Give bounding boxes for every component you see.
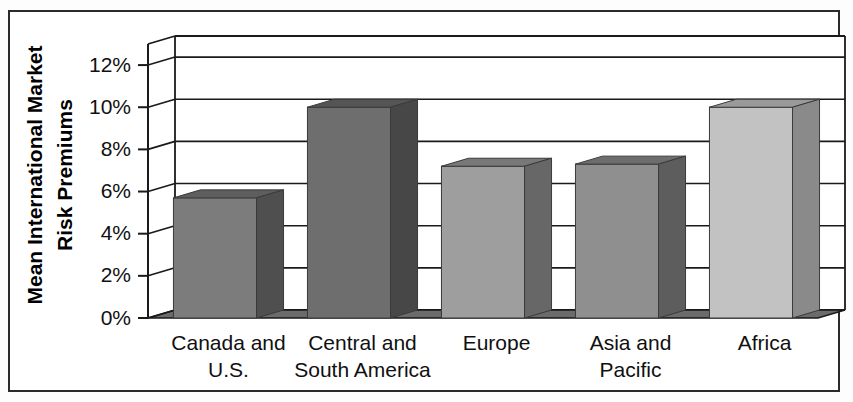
bar-front-face[interactable] xyxy=(307,107,390,318)
bar[interactable] xyxy=(709,99,819,318)
x-axis-category-label: Asia and xyxy=(590,331,672,354)
bar-chart: Mean International Market Risk Premiums … xyxy=(0,0,853,402)
bar[interactable] xyxy=(575,156,685,318)
x-axis-category-label: Pacific xyxy=(600,358,662,381)
y-axis-title: Mean International Market Risk Premiums xyxy=(23,45,76,304)
depth-connector xyxy=(148,99,175,107)
y-axis-title-line-1: Mean International Market xyxy=(23,45,46,304)
bar-side-face xyxy=(257,190,284,318)
top-depth-connector xyxy=(148,36,175,44)
depth-connector xyxy=(148,57,175,65)
bar[interactable] xyxy=(173,190,283,318)
axis-depth-connectors xyxy=(148,57,175,318)
depth-connector xyxy=(148,141,175,149)
y-axis-ticks xyxy=(138,65,148,318)
depth-connector xyxy=(148,184,175,192)
bar-side-face xyxy=(793,99,820,318)
y-axis-tick-label: 12% xyxy=(89,53,131,76)
bar-front-face[interactable] xyxy=(709,107,792,318)
x-axis-category-label: U.S. xyxy=(208,358,249,381)
x-axis-category-label: South America xyxy=(294,358,431,381)
figure-container: Mean International Market Risk Premiums … xyxy=(0,0,853,402)
x-axis-category-label: Europe xyxy=(463,331,531,354)
x-axis-category-labels: Canada andU.S.Central andSouth AmericaEu… xyxy=(171,331,791,381)
depth-connector xyxy=(148,226,175,234)
depth-connector xyxy=(148,268,175,276)
y-axis-title-line-2: Risk Premiums xyxy=(53,99,76,251)
y-axis-tick-label: 4% xyxy=(101,221,131,244)
x-axis-category-label: Canada and xyxy=(171,331,285,354)
y-axis-tick-labels: 0%2%4%6%8%10%12% xyxy=(89,53,131,329)
y-axis-tick-label: 8% xyxy=(101,137,131,160)
x-axis-category-label: Africa xyxy=(738,331,792,354)
y-axis-tick-label: 2% xyxy=(101,263,131,286)
bar-front-face[interactable] xyxy=(575,164,658,318)
y-axis-tick-label: 10% xyxy=(89,95,131,118)
x-axis-category-label: Central and xyxy=(308,331,417,354)
bar[interactable] xyxy=(441,158,551,318)
bar-side-face xyxy=(659,156,686,318)
bar-front-face[interactable] xyxy=(173,198,256,318)
bar-front-face[interactable] xyxy=(441,166,524,318)
bar[interactable] xyxy=(307,99,417,318)
bar-side-face xyxy=(391,99,418,318)
y-axis-tick-label: 6% xyxy=(101,179,131,202)
bar-side-face xyxy=(525,158,552,318)
y-axis-tick-label: 0% xyxy=(101,306,131,329)
